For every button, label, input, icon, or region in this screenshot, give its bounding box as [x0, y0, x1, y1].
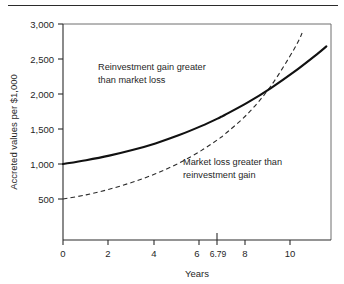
x-tick-label-6-79: 6.79 [210, 249, 227, 259]
x-tick-label-2: 2 [105, 248, 110, 259]
x-axis-ticks [63, 233, 290, 245]
upper-region-note: Reinvestment gain greater than market lo… [98, 62, 206, 85]
x-tick-label-8: 8 [242, 248, 247, 259]
y-tick-label-1500: 1,500 [30, 124, 54, 135]
y-tick-label-3000: 3,000 [30, 19, 54, 30]
figure-container: 500 1,000 1,500 2,000 2,500 3,000 Accret… [0, 0, 344, 284]
lower-region-note-line-2: reinvestment gain [183, 170, 256, 180]
lower-region-note-line-1: Market loss greater than [183, 157, 282, 167]
x-tick-label-4: 4 [151, 248, 156, 259]
upper-region-note-line-2: than market loss [98, 75, 166, 85]
x-axis-tick-labels: 0 2 4 6 6.79 8 10 [60, 248, 295, 259]
upper-region-note-line-1: Reinvestment gain greater [98, 62, 206, 72]
y-axis-tick-labels: 500 1,000 1,500 2,000 2,500 3,000 [30, 19, 54, 205]
x-tick-label-6: 6 [194, 248, 199, 259]
x-tick-label-10: 10 [285, 248, 296, 259]
y-tick-label-500: 500 [38, 194, 54, 205]
accreted-values-chart: 500 1,000 1,500 2,000 2,500 3,000 Accret… [0, 0, 344, 284]
plot-frame [63, 24, 331, 240]
lower-region-note: Market loss greater than reinvestment ga… [183, 157, 282, 180]
x-axis-title: Years [185, 268, 209, 279]
y-axis-title: Accreted values per $1,000 [8, 74, 19, 190]
y-tick-label-2500: 2,500 [30, 54, 54, 65]
y-axis-ticks [58, 24, 63, 199]
x-tick-label-0: 0 [60, 248, 65, 259]
y-tick-label-1000: 1,000 [30, 159, 54, 170]
y-tick-label-2000: 2,000 [30, 89, 54, 100]
